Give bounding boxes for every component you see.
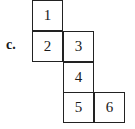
- cell-2: 2: [32, 31, 63, 62]
- cell-1: 1: [32, 0, 63, 31]
- cell-number: 1: [44, 7, 52, 24]
- cell-3: 3: [63, 31, 94, 62]
- cell-number: 5: [75, 99, 83, 116]
- cell-5: 5: [63, 92, 94, 123]
- cell-number: 3: [75, 38, 83, 55]
- cell-6: 6: [94, 92, 125, 123]
- figure-label: c.: [6, 37, 16, 53]
- cell-number: 6: [106, 99, 114, 116]
- cell-4: 4: [63, 62, 94, 93]
- cell-number: 2: [44, 38, 52, 55]
- cell-number: 4: [75, 69, 83, 86]
